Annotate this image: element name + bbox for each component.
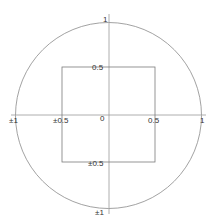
label-bottom: ±1 [95, 208, 104, 217]
label-top: 1 [103, 15, 108, 24]
diagram-canvas: 1 0.5 ±1 ±0.5 0 0.5 1 ±0.5 ±1 [0, 0, 214, 222]
label-origin: 0 [100, 114, 105, 123]
label-right: 1 [200, 116, 205, 125]
label-left: ±1 [9, 116, 18, 125]
label-square-right: 0.5 [148, 116, 160, 125]
label-square-left: ±0.5 [53, 116, 69, 125]
label-square-top: 0.5 [92, 63, 104, 72]
label-square-bottom: ±0.5 [88, 159, 104, 168]
unit-circle [16, 23, 202, 209]
inner-square [62, 67, 155, 162]
